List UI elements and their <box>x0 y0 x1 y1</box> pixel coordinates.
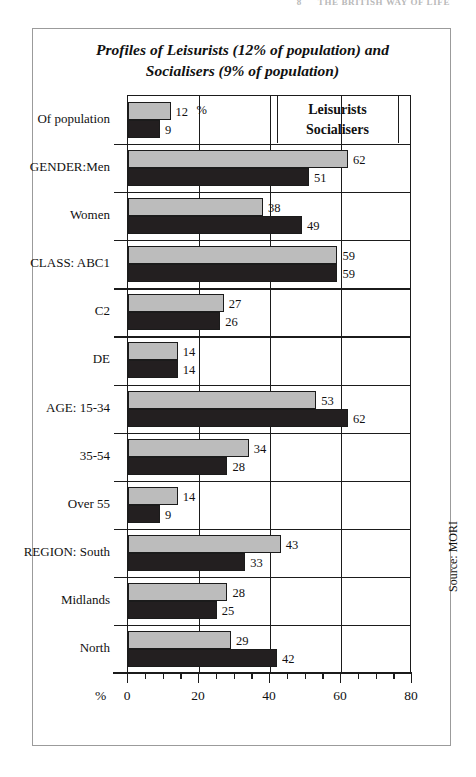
x-tick-minor-25 <box>216 672 217 679</box>
legend-cell-divider-1 <box>277 96 278 143</box>
chart-title: Profiles of Leisurists (12% of populatio… <box>33 39 452 81</box>
x-tick-minor-30 <box>234 672 235 679</box>
x-tick-minor-55 <box>322 672 323 679</box>
bar-socialisers <box>128 409 348 427</box>
bar-value-socialisers: 59 <box>342 268 355 281</box>
x-tick-label-80: 80 <box>404 688 418 704</box>
bar-value-socialisers: 62 <box>353 413 366 426</box>
bar-leisurists <box>128 631 231 649</box>
first-row-unit-label: % <box>197 104 207 117</box>
bar-value-leisurists: 27 <box>229 298 242 311</box>
chart-row: 35-543428 <box>128 433 410 481</box>
x-tick-minor-65 <box>358 672 359 679</box>
category-label: Midlands <box>0 592 110 608</box>
category-label: Women <box>0 207 110 223</box>
source-note: Source: MORI <box>446 521 461 592</box>
category-label: Of population <box>0 111 110 127</box>
bar-leisurists <box>128 342 178 360</box>
chart-row: Women3849 <box>128 192 410 240</box>
plot-area: Of population129GENDER:Men6251Women3849C… <box>127 95 411 672</box>
chart-row: North2942 <box>128 625 410 673</box>
bar-socialisers <box>128 120 160 138</box>
chart-title-line-2: Socialisers (9% of population) <box>33 60 452 81</box>
bar-socialisers <box>128 601 217 619</box>
row-separator-stub <box>114 385 128 386</box>
x-tick-label-60: 60 <box>333 688 347 704</box>
bar-leisurists <box>128 391 316 409</box>
bar-value-leisurists: 53 <box>321 395 334 408</box>
running-head: 8THE BRITISH WAY OF LIFE <box>0 0 476 7</box>
x-tick-major-80 <box>411 672 412 683</box>
legend-item-socialisers: Socialisers <box>284 120 391 140</box>
bar-leisurists <box>128 294 224 312</box>
legend-item-leisurists: Leisurists <box>284 100 391 120</box>
row-separator-stub <box>114 577 128 578</box>
bar-leisurists <box>128 535 281 553</box>
bar-leisurists <box>128 246 337 264</box>
category-label: C2 <box>0 303 110 319</box>
x-tick-minor-75 <box>393 672 394 679</box>
x-axis-left-extension <box>113 672 127 674</box>
bar-value-leisurists: 59 <box>342 250 355 263</box>
x-tick-major-60 <box>340 672 341 683</box>
x-tick-minor-50 <box>305 672 306 679</box>
row-separator-stub <box>114 288 128 289</box>
chart-row: AGE: 15-345362 <box>128 385 410 433</box>
plot-inner: Of population129GENDER:Men6251Women3849C… <box>128 96 410 672</box>
legend-cell-divider-2 <box>398 96 399 143</box>
x-tick-major-40 <box>269 672 270 683</box>
bar-value-leisurists: 12 <box>176 106 189 119</box>
category-label: GENDER:Men <box>0 159 110 175</box>
x-tick-label-20: 20 <box>191 688 205 704</box>
figure-frame: Profiles of Leisurists (12% of populatio… <box>32 28 451 746</box>
bar-value-leisurists: 38 <box>268 202 281 215</box>
row-separator-stub <box>114 529 128 530</box>
x-tick-minor-10 <box>163 672 164 679</box>
bar-socialisers <box>128 312 220 330</box>
chart-row: GENDER:Men6251 <box>128 144 410 192</box>
bar-value-socialisers: 26 <box>225 316 238 329</box>
legend: LeisuristsSocialisers <box>284 100 391 140</box>
bar-value-leisurists: 62 <box>353 154 366 167</box>
row-separator-stub <box>114 433 128 434</box>
bar-leisurists <box>128 150 348 168</box>
bar-value-leisurists: 28 <box>232 587 245 600</box>
chart-row: C22726 <box>128 288 410 336</box>
chart-row: CLASS: ABC15959 <box>128 240 410 288</box>
category-label: North <box>0 640 110 656</box>
x-tick-minor-5 <box>145 672 146 679</box>
bar-value-socialisers: 33 <box>250 557 263 570</box>
x-tick-minor-70 <box>376 672 377 679</box>
chart-title-line-1: Profiles of Leisurists (12% of populatio… <box>33 39 452 60</box>
bar-socialisers <box>128 168 309 186</box>
bar-value-socialisers: 51 <box>314 172 327 185</box>
bar-socialisers <box>128 649 277 667</box>
category-label: DE <box>0 351 110 367</box>
category-label: REGION: South <box>0 544 110 560</box>
bar-value-socialisers: 25 <box>222 605 235 618</box>
bar-value-socialisers: 42 <box>282 653 295 666</box>
bar-value-socialisers: 9 <box>165 124 171 137</box>
chart-row: DE1414 <box>128 336 410 384</box>
figure-page: 8THE BRITISH WAY OF LIFE Profiles of Lei… <box>0 0 476 777</box>
bar-socialisers <box>128 553 245 571</box>
bar-value-socialisers: 9 <box>165 509 171 522</box>
bar-leisurists <box>128 102 171 120</box>
bar-socialisers <box>128 505 160 523</box>
x-tick-minor-35 <box>251 672 252 679</box>
bar-socialisers <box>128 264 337 282</box>
x-tick-major-0 <box>127 672 128 683</box>
row-separator-stub <box>114 336 128 337</box>
bar-leisurists <box>128 487 178 505</box>
bar-leisurists <box>128 198 263 216</box>
bar-socialisers <box>128 360 178 378</box>
bar-value-socialisers: 49 <box>307 220 320 233</box>
x-tick-label-40: 40 <box>262 688 276 704</box>
category-label: AGE: 15-34 <box>0 400 110 416</box>
x-axis-unit-label: % <box>95 688 106 704</box>
row-separator-stub <box>114 144 128 145</box>
chart-row: Midlands2825 <box>128 577 410 625</box>
x-tick-label-0: 0 <box>124 688 131 704</box>
running-head-title: THE BRITISH WAY OF LIFE <box>318 0 450 7</box>
category-label: Over 55 <box>0 496 110 512</box>
